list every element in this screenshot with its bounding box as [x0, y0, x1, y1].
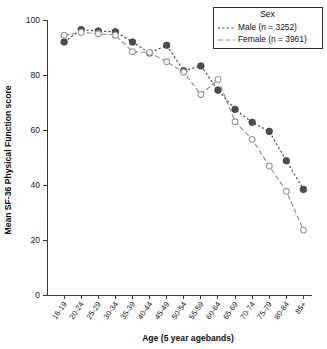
- data-point-female-20-24: [78, 29, 84, 35]
- chart-container: 020406080100 16-1920-2425-2930-3435-3940…: [0, 0, 327, 349]
- data-point-male-65-69: [232, 106, 239, 113]
- x-axis-tick-label: 70-74: [238, 300, 257, 321]
- data-point-male-70-74: [249, 119, 256, 126]
- data-point-male-75-79: [266, 128, 273, 135]
- data-point-male-35-39: [129, 39, 136, 46]
- data-point-female-30-34: [112, 32, 118, 38]
- x-axis-tick-label: 16-19: [50, 300, 69, 321]
- data-point-female-16-19: [61, 32, 67, 38]
- data-point-male-80-84: [283, 158, 290, 165]
- sf36-physical-function-line-chart: 020406080100 16-1920-2425-2930-3435-3940…: [0, 0, 327, 349]
- data-point-male-55-59: [198, 63, 205, 70]
- x-axis-tick-label: 55-59: [187, 300, 206, 321]
- data-point-female-40-44: [147, 50, 153, 56]
- data-series-group: [61, 26, 307, 233]
- legend-title: Sex: [260, 9, 275, 19]
- y-axis-tick-label: 100: [26, 15, 40, 25]
- y-axis: 020406080100: [26, 15, 47, 300]
- chart-legend: SexMale (n = 3252)Female (n = 3961): [213, 7, 322, 48]
- data-point-female-65-69: [232, 119, 238, 125]
- data-point-male-16-19: [61, 39, 68, 46]
- x-axis-tick-label: 65-69: [221, 300, 240, 321]
- y-axis-tick-label: 20: [31, 235, 41, 245]
- x-axis-title: Age (5 year agebands): [142, 333, 234, 343]
- data-point-female-80-84: [283, 188, 289, 194]
- y-axis-tick-label: 40: [31, 180, 41, 190]
- x-axis-tick-label: 35-39: [119, 300, 138, 321]
- y-axis-title: Mean SF-36 Physical Function score: [3, 85, 13, 234]
- data-point-female-85+: [301, 227, 307, 233]
- data-point-female-70-74: [249, 136, 255, 142]
- x-axis: 16-1920-2425-2930-3435-3940-4445-4950-54…: [47, 295, 312, 321]
- data-point-male-85+: [300, 186, 307, 193]
- x-axis-tick-label: 80-84: [272, 300, 291, 321]
- x-axis-tick-label: 20-24: [67, 300, 86, 321]
- data-point-female-35-39: [130, 49, 136, 55]
- data-point-female-55-59: [198, 92, 204, 98]
- data-point-female-25-29: [95, 31, 101, 37]
- x-axis-tick-label: 40-44: [136, 300, 155, 321]
- legend-label-male: Male (n = 3252): [238, 22, 297, 32]
- data-point-female-45-49: [164, 59, 170, 65]
- data-point-female-50-54: [181, 69, 187, 75]
- x-axis-tick-label: 25-29: [84, 300, 103, 321]
- data-point-male-60-64: [215, 87, 222, 94]
- data-point-female-75-79: [266, 163, 272, 169]
- x-axis-tick-label: 50-54: [170, 300, 189, 321]
- x-axis-tick-label: 75-79: [255, 300, 274, 321]
- y-axis-tick-label: 80: [31, 70, 41, 80]
- y-axis-tick-label: 0: [35, 290, 40, 300]
- legend-label-female: Female (n = 3961): [238, 34, 307, 44]
- x-axis-tick-label: 85+: [293, 300, 308, 316]
- x-axis-tick-label: 60-64: [204, 300, 223, 321]
- y-axis-tick-label: 60: [31, 125, 41, 135]
- data-point-female-60-64: [215, 77, 221, 83]
- data-point-male-45-49: [163, 42, 170, 49]
- x-axis-tick-label: 30-34: [102, 300, 121, 321]
- x-axis-tick-label: 45-49: [153, 300, 172, 321]
